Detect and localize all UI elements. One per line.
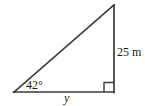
base-label-y: y	[64, 92, 69, 104]
right-angle-square-icon	[104, 83, 114, 93]
triangle-figure: 25 m 42° y	[0, 0, 145, 106]
side-label-25m: 25 m	[117, 46, 141, 58]
angle-label-42-degrees: 42°	[26, 79, 43, 91]
